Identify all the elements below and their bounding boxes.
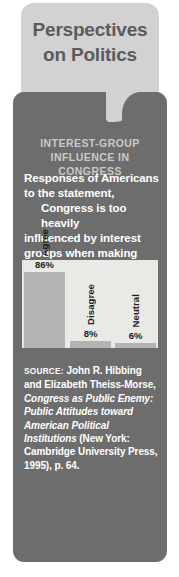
page-title-line2: on Politics [21, 42, 159, 67]
source-label: SOURCE: [24, 367, 64, 376]
source-citation: SOURCE: John R. Hibbing and Elizabeth Th… [24, 364, 160, 472]
bar-value-disagree: 8% [70, 328, 111, 339]
infographic-card: Perspectives on Politics INTEREST-GROUP … [0, 0, 179, 577]
body-panel: INTEREST-GROUP INFLUENCE IN CONGRESS Res… [13, 92, 167, 562]
bar-value-neutral: 6% [115, 330, 156, 341]
bar-label-agree: Agree [39, 229, 50, 256]
page-title: Perspectives on Politics [21, 17, 159, 67]
bar-disagree [70, 341, 111, 348]
bar-value-agree: 86% [24, 259, 65, 270]
bar-neutral [115, 343, 156, 348]
lede-line2: the statement, [38, 187, 115, 199]
quote-line1: Congress is too heavily [24, 201, 166, 231]
header-panel: Perspectives on Politics [21, 3, 159, 106]
bar-label-neutral: Neutral [130, 294, 141, 327]
chart-plot-area: 86%Agree8%Disagree6%Neutral [22, 260, 158, 348]
bar-label-disagree: Disagree [85, 284, 96, 325]
page-title-line1: Perspectives [33, 19, 148, 40]
section-subtitle-line1: INTEREST-GROUP [40, 137, 140, 149]
bar-agree [24, 272, 65, 348]
bar-chart: 86%Agree8%Disagree6%Neutral [22, 260, 158, 348]
